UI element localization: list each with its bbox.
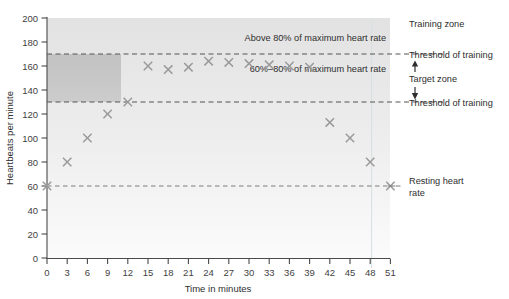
x-tick-label: 6	[85, 267, 90, 278]
x-tick-label: 24	[203, 267, 214, 278]
chart-stage: 200 180 160 140 120 100 80 60 40 20 0 He…	[0, 0, 509, 299]
x-axis-title: Time in minutes	[185, 283, 252, 294]
right-legend: Training zone Threshold of training Targ…	[409, 19, 493, 198]
x-tick-label: 12	[123, 267, 134, 278]
y-axis-ticks	[42, 18, 48, 258]
x-tick-label: 9	[105, 267, 110, 278]
y-tick-label: 200	[22, 13, 38, 24]
y-tick-label: 0	[33, 253, 38, 264]
legend-threshold-upper: Threshold of training	[409, 50, 493, 60]
x-tick-label: 33	[264, 267, 275, 278]
x-tick-label: 51	[385, 267, 396, 278]
x-tick-label: 18	[163, 267, 174, 278]
x-tick-label: 3	[65, 267, 70, 278]
y-axis-tick-labels: 200 180 160 140 120 100 80 60 40 20 0	[22, 13, 38, 264]
x-tick-label: 0	[44, 267, 49, 278]
x-tick-label: 36	[284, 267, 295, 278]
y-tick-label: 120	[22, 109, 38, 120]
y-tick-label: 140	[22, 85, 38, 96]
x-tick-label: 42	[325, 267, 336, 278]
target-zone-shaded-band	[47, 54, 121, 102]
legend-target-zone: Target zone	[409, 74, 457, 84]
y-tick-label: 100	[22, 133, 38, 144]
y-tick-label: 160	[22, 61, 38, 72]
annotation-above-80: Above 80% of maximum heart rate	[245, 33, 386, 43]
x-tick-label: 15	[143, 267, 154, 278]
heart-rate-scatter-chart: 200 180 160 140 120 100 80 60 40 20 0 He…	[0, 0, 509, 299]
y-tick-label: 80	[27, 157, 38, 168]
x-tick-label: 30	[244, 267, 255, 278]
arrow-up-icon	[412, 61, 418, 73]
y-tick-label: 20	[27, 229, 38, 240]
x-axis-ticks	[47, 259, 390, 265]
x-tick-label: 45	[345, 267, 356, 278]
x-tick-label: 21	[183, 267, 194, 278]
x-tick-label: 48	[365, 267, 376, 278]
x-tick-label: 27	[224, 267, 235, 278]
y-tick-label: 40	[27, 205, 38, 216]
legend-threshold-lower: Threshold of training	[409, 98, 493, 108]
y-axis-title: Heartbeats per minute	[4, 91, 15, 185]
x-tick-label: 39	[304, 267, 315, 278]
x-axis-tick-labels: 0 3 6 9 12 15 18 21 24 27 30 33 36 39 42…	[44, 267, 395, 278]
legend-resting-heart-rate-line2: rate	[409, 188, 425, 198]
legend-resting-heart-rate: Resting heart	[409, 176, 464, 186]
y-tick-label: 180	[22, 37, 38, 48]
legend-training-zone: Training zone	[409, 19, 464, 29]
y-tick-label: 60	[27, 181, 38, 192]
